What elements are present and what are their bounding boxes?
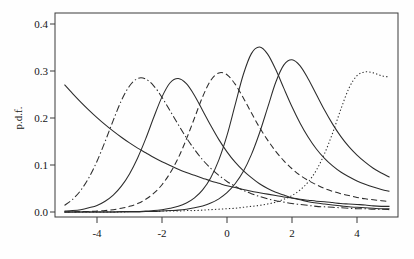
y-tick-label-3: 0.3 — [34, 65, 48, 77]
y-tick-label-4: 0.4 — [34, 18, 48, 30]
chart-curve-5 — [65, 47, 390, 212]
y-tick-label-0: 0.0 — [34, 206, 48, 218]
y-axis-tick-marks — [50, 24, 55, 212]
y-axis-tick-labels: 0.4 0.3 0.2 0.1 0.0 — [34, 18, 48, 218]
plot-frame — [55, 13, 398, 217]
chart-figure: 0.4 0.3 0.2 0.1 0.0 p.d.f. -4 -2 0 2 4 — [0, 0, 414, 259]
x-tick-label-0: -4 — [92, 227, 102, 239]
x-axis-tick-labels: -4 -2 0 2 4 — [92, 227, 360, 239]
curves-layer — [65, 47, 390, 212]
chart-curve-2 — [65, 78, 390, 210]
x-tick-label-4: 4 — [354, 227, 360, 239]
x-axis-tick-marks — [97, 217, 357, 223]
chart-curve-4 — [65, 73, 390, 213]
y-tick-label-1: 0.1 — [34, 159, 48, 171]
y-tick-label-2: 0.2 — [34, 112, 48, 124]
x-tick-label-2: 0 — [224, 227, 230, 239]
chart-curve-3 — [65, 79, 390, 212]
x-tick-label-1: -2 — [157, 227, 166, 239]
pdf-line-chart: 0.4 0.3 0.2 0.1 0.0 p.d.f. -4 -2 0 2 4 — [0, 0, 414, 259]
y-axis-title: p.d.f. — [12, 106, 24, 129]
chart-curve-7 — [65, 72, 390, 212]
x-tick-label-3: 2 — [289, 227, 295, 239]
chart-curve-1 — [65, 85, 390, 207]
